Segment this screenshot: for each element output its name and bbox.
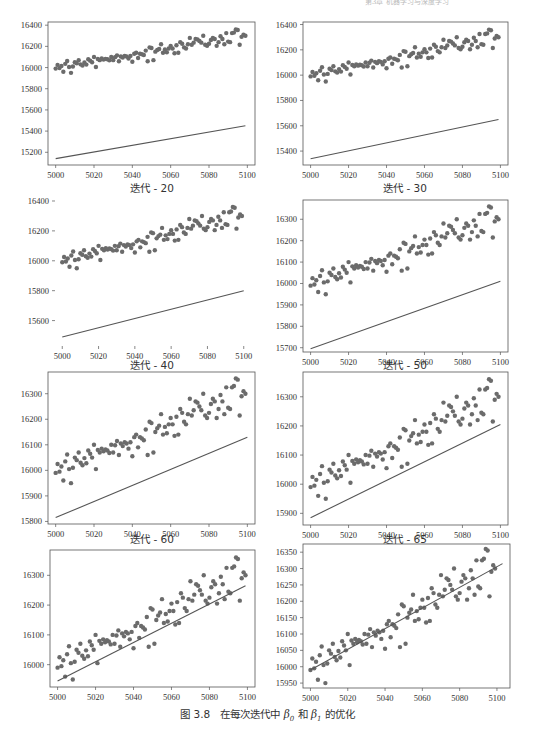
y-tick-label: 16100 [276, 629, 297, 639]
y-tick-label: 16200 [276, 596, 297, 606]
y-tick-label: 15600 [276, 121, 297, 131]
y-tick-label: 16000 [276, 278, 297, 288]
y-tick-label: 16000 [28, 256, 49, 266]
y-tick-label: 16300 [276, 214, 297, 224]
chart-svg: 1520015400156001580016000162001640050005… [48, 22, 255, 165]
chart-panel-3: 1560015800160001620016400500050205040506… [55, 198, 251, 346]
y-tick-label: 16100 [276, 257, 297, 267]
y-tick-label: 16200 [21, 414, 42, 424]
chart-svg: 1540015600158001600016200164005000502050… [303, 22, 508, 165]
y-tick-label: 15950 [276, 678, 297, 688]
y-tick-label: 16300 [21, 389, 42, 399]
plot-frame [50, 550, 255, 687]
subcaption-2: 迭代 - 30 [305, 180, 505, 195]
y-tick-label: 16000 [276, 70, 297, 80]
plot-frame [303, 22, 508, 165]
chart-svg: 1580015900160001610016200163005000502050… [48, 372, 255, 524]
y-tick-label: 15800 [21, 516, 42, 526]
x-tick-label: 5060 [416, 170, 433, 180]
y-tick-label: 15600 [28, 316, 49, 326]
y-tick-label: 16400 [276, 20, 297, 30]
y-tick-label: 16000 [276, 479, 297, 489]
x-tick-label: 5000 [47, 170, 64, 180]
y-tick-label: 16350 [276, 547, 297, 557]
y-tick-label: 16400 [21, 20, 42, 30]
scatter-points [53, 376, 247, 485]
chart-panel-6: 1590016000161001620016300500050205040506… [303, 372, 508, 525]
y-tick-label: 16200 [21, 41, 42, 51]
y-tick-label: 15200 [21, 147, 42, 157]
x-tick-label: 5040 [377, 693, 394, 703]
y-tick-label: 16000 [276, 662, 297, 672]
y-tick-label: 16300 [23, 570, 44, 580]
y-tick-label: 15900 [276, 300, 297, 310]
scatter-points [53, 27, 247, 75]
y-tick-label: 16200 [28, 226, 49, 236]
scatter-points [308, 547, 497, 686]
x-tick-label: 5000 [302, 693, 319, 703]
y-tick-label: 16100 [276, 450, 297, 460]
y-tick-label: 15700 [276, 343, 297, 353]
x-tick-label: 5000 [49, 692, 66, 702]
y-tick-label: 16000 [21, 465, 42, 475]
regression-line [310, 564, 502, 670]
chart-svg: 1560015800160001620016400500050205040506… [55, 198, 251, 346]
plot-frame [48, 372, 255, 524]
x-tick-label: 5080 [201, 170, 218, 180]
chart-panel-1: 1520015400156001580016000162001640050005… [48, 22, 255, 165]
x-tick-label: 5040 [378, 170, 395, 180]
y-tick-label: 15900 [21, 491, 42, 501]
page-header: 第3章 机器学习与深度学习 [365, 0, 515, 8]
x-tick-label: 5040 [125, 692, 142, 702]
scatter-points [308, 27, 500, 83]
chart-svg: 1590016000161001620016300500050205040506… [303, 372, 508, 525]
chart-panel-7: 1600016100162001630050005020504050605080… [50, 550, 255, 687]
subcaption-3: 迭代 - 40 [52, 357, 252, 372]
x-tick-label: 5060 [162, 170, 179, 180]
y-tick-label: 16200 [276, 45, 297, 55]
x-tick-label: 5080 [454, 170, 471, 180]
x-tick-label: 5020 [87, 692, 104, 702]
x-tick-label: 5000 [302, 170, 319, 180]
y-tick-label: 15400 [21, 126, 42, 136]
y-tick-label: 15600 [21, 105, 42, 115]
x-tick-label: 5020 [339, 693, 356, 703]
chart-panel-2: 1540015600158001600016200164005000502050… [303, 22, 508, 165]
beta1-symbol: β1 [311, 708, 322, 720]
plot-frame [303, 372, 508, 525]
y-tick-label: 15400 [276, 146, 297, 156]
subcaption-5: 迭代 - 60 [52, 531, 252, 546]
y-tick-label: 16300 [276, 392, 297, 402]
x-tick-label: 5080 [201, 692, 218, 702]
figure-caption-conj: 和 [298, 708, 308, 720]
x-tick-label: 5020 [86, 170, 103, 180]
regression-line [56, 437, 248, 517]
x-tick-label: 5100 [239, 170, 256, 180]
beta0-symbol: β0 [284, 708, 295, 720]
subcaption-4: 迭代 - 50 [305, 357, 505, 372]
regression-line [58, 586, 246, 681]
y-tick-label: 16200 [276, 421, 297, 431]
x-tick-label: 5100 [492, 170, 509, 180]
y-tick-label: 16100 [21, 440, 42, 450]
scatter-points [60, 205, 244, 271]
x-tick-label: 5100 [488, 693, 505, 703]
chart-panel-5: 1580015900160001610016200163005000502050… [48, 372, 255, 524]
figure-caption-suffix: 的优化 [325, 708, 355, 720]
figure-caption: 图 3.8 在每次迭代中 β0 和 β1 的优化 [0, 706, 535, 723]
regression-line [311, 119, 499, 158]
y-tick-label: 16300 [276, 564, 297, 574]
regression-line [62, 291, 243, 337]
y-tick-label: 16200 [23, 600, 44, 610]
x-tick-label: 5040 [124, 170, 141, 180]
x-tick-label: 5060 [163, 692, 180, 702]
y-tick-label: 16050 [276, 645, 297, 655]
y-tick-label: 16000 [21, 63, 42, 73]
y-tick-label: 16400 [28, 196, 49, 206]
scatter-points [55, 555, 247, 682]
subcaption-1: 迭代 - 20 [52, 180, 252, 195]
chart-panel-8: 1595016000160501610016150162001625016300… [303, 544, 510, 688]
x-tick-label: 5060 [414, 693, 431, 703]
y-tick-label: 16100 [23, 630, 44, 640]
y-tick-label: 15800 [276, 95, 297, 105]
